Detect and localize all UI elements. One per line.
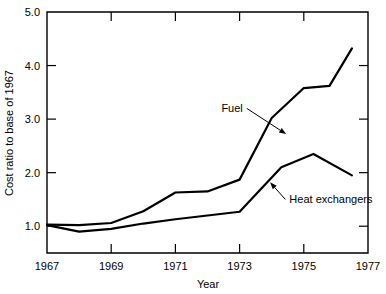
x-axis-title: Year bbox=[197, 278, 220, 290]
x-tick-label: 1973 bbox=[227, 260, 251, 272]
cost-ratio-line-chart: 1.02.03.04.05.0 196719691971197319751977… bbox=[0, 0, 386, 294]
chart-background bbox=[0, 0, 386, 294]
y-axis-title: Cost ratio to base of 1967 bbox=[3, 70, 15, 196]
x-tick-label: 1977 bbox=[356, 260, 380, 272]
y-tick-label: 4.0 bbox=[25, 60, 40, 72]
y-tick-label: 3.0 bbox=[25, 113, 40, 125]
x-tick-label: 1975 bbox=[292, 260, 316, 272]
y-tick-label: 2.0 bbox=[25, 167, 40, 179]
x-tick-label: 1969 bbox=[99, 260, 123, 272]
y-tick-label: 5.0 bbox=[25, 6, 40, 18]
series-annotation-label: Heat exchangers bbox=[289, 193, 373, 205]
x-tick-label: 1971 bbox=[163, 260, 187, 272]
series-annotation-label: Fuel bbox=[221, 102, 242, 114]
figure-container: 1.02.03.04.05.0 196719691971197319751977… bbox=[0, 0, 386, 294]
y-tick-label: 1.0 bbox=[25, 220, 40, 232]
x-tick-label: 1967 bbox=[35, 260, 59, 272]
